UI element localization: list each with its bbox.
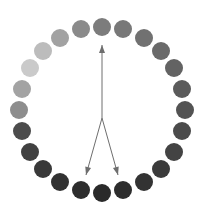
ring-dot xyxy=(13,122,31,140)
ring-dot xyxy=(10,101,28,119)
ring-dot xyxy=(165,59,183,77)
ring-dot xyxy=(21,59,39,77)
ring-dot xyxy=(34,42,52,60)
figure-container xyxy=(0,0,204,222)
ring-dot xyxy=(173,80,191,98)
ring-dot xyxy=(176,101,194,119)
ring-dot xyxy=(34,160,52,178)
ring-dot xyxy=(93,18,111,36)
ring-dot xyxy=(93,184,111,202)
ring-dot xyxy=(13,80,31,98)
ring-dot xyxy=(135,173,153,191)
ring-dot xyxy=(51,173,69,191)
ring-dot xyxy=(114,20,132,38)
ring-dot xyxy=(21,143,39,161)
ring-dot xyxy=(51,29,69,47)
ring-dot xyxy=(173,122,191,140)
ring-dot xyxy=(152,160,170,178)
ring-dot xyxy=(72,181,90,199)
ring-dot xyxy=(165,143,183,161)
ring-dot xyxy=(72,20,90,38)
ring-dot xyxy=(152,42,170,60)
dot-ring-diagram xyxy=(0,0,204,222)
ring-dot xyxy=(114,181,132,199)
ring-dot xyxy=(135,29,153,47)
